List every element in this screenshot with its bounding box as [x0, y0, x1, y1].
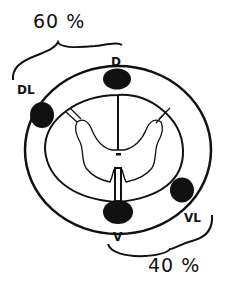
top-percentage-label: 60 %	[33, 10, 85, 32]
bottom-percentage-label: 40 %	[148, 254, 200, 276]
lesion-ventral	[103, 200, 133, 224]
dorsal-label: D	[111, 55, 121, 69]
ventral-median-fissure	[115, 168, 121, 203]
central-canal	[116, 153, 121, 156]
lesion-dorsolateral	[30, 102, 54, 128]
ventrolateral-label: VL	[184, 211, 201, 225]
lesion-ventrolateral	[170, 178, 194, 203]
ventral-label: V	[113, 230, 122, 244]
dorsolateral-label: DL	[17, 83, 35, 97]
lesion-dorsal	[103, 69, 131, 90]
